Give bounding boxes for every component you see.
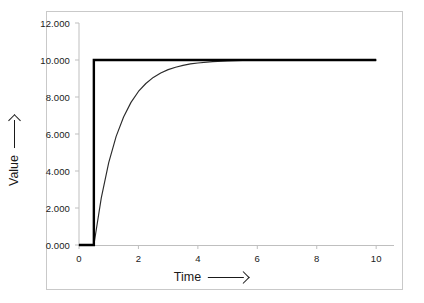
y-tick-label: 0.000 (0, 240, 70, 251)
chart-figure: 0.0002.0004.0006.0008.00010.00012.000 02… (0, 0, 424, 303)
x-axis-title: Time (174, 270, 250, 284)
x-tick-label: 8 (314, 253, 319, 264)
y-tick-label: 2.000 (0, 203, 70, 214)
x-tick-label: 10 (371, 253, 382, 264)
axis-lines (79, 23, 394, 246)
x-axis-title-text: Time (174, 270, 201, 284)
plot-canvas (0, 0, 424, 303)
y-axis-title-text: Value (7, 155, 21, 186)
right-arrow-icon (208, 272, 250, 282)
series-step-input (79, 60, 376, 245)
y-axis-ticks (75, 23, 79, 245)
y-tick-label: 10.000 (0, 55, 70, 66)
x-tick-label: 6 (255, 253, 260, 264)
y-axis-title: Value (7, 114, 21, 186)
x-tick-label: 0 (76, 253, 81, 264)
series-exponential-response (79, 60, 376, 245)
up-arrow-icon (9, 114, 19, 148)
y-tick-label: 12.000 (0, 18, 70, 29)
x-tick-label: 2 (136, 253, 141, 264)
x-tick-label: 4 (195, 253, 200, 264)
y-tick-label: 8.000 (0, 92, 70, 103)
